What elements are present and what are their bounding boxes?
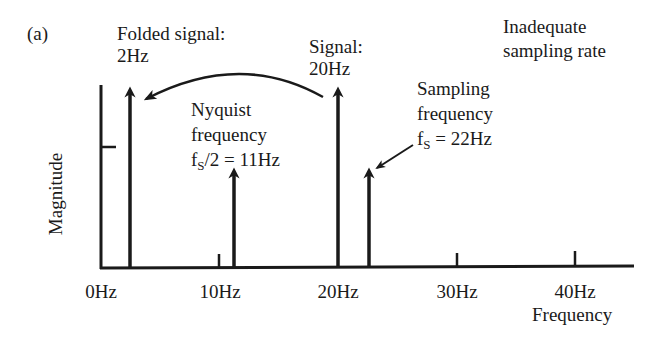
condition-label: Inadequate sampling rate [503, 15, 606, 63]
nyquist-label: Nyquist frequency fS/2 = 11Hz [191, 97, 280, 172]
sampling-label: Sampling frequency fS = 22Hz [417, 76, 493, 151]
x-tick-label-20: 20Hz [317, 281, 358, 303]
x-axis-label: Frequency [532, 304, 612, 326]
x-tick-label-30: 30Hz [436, 281, 477, 303]
y-axis-label: Magnitude [45, 153, 67, 235]
x-tick-label-0: 0Hz [85, 281, 117, 303]
x-axis [100, 266, 634, 268]
panel-label: (a) [27, 23, 48, 45]
fold-arc-arrow [146, 74, 323, 99]
folded-signal-label: Folded signal: 2Hz [117, 23, 225, 67]
x-tick-label-10: 10Hz [199, 281, 240, 303]
x-tick-label-40: 40Hz [554, 281, 595, 303]
sampling-pointer-arrow [377, 145, 413, 168]
signal-label: Signal: 20Hz [309, 36, 363, 80]
